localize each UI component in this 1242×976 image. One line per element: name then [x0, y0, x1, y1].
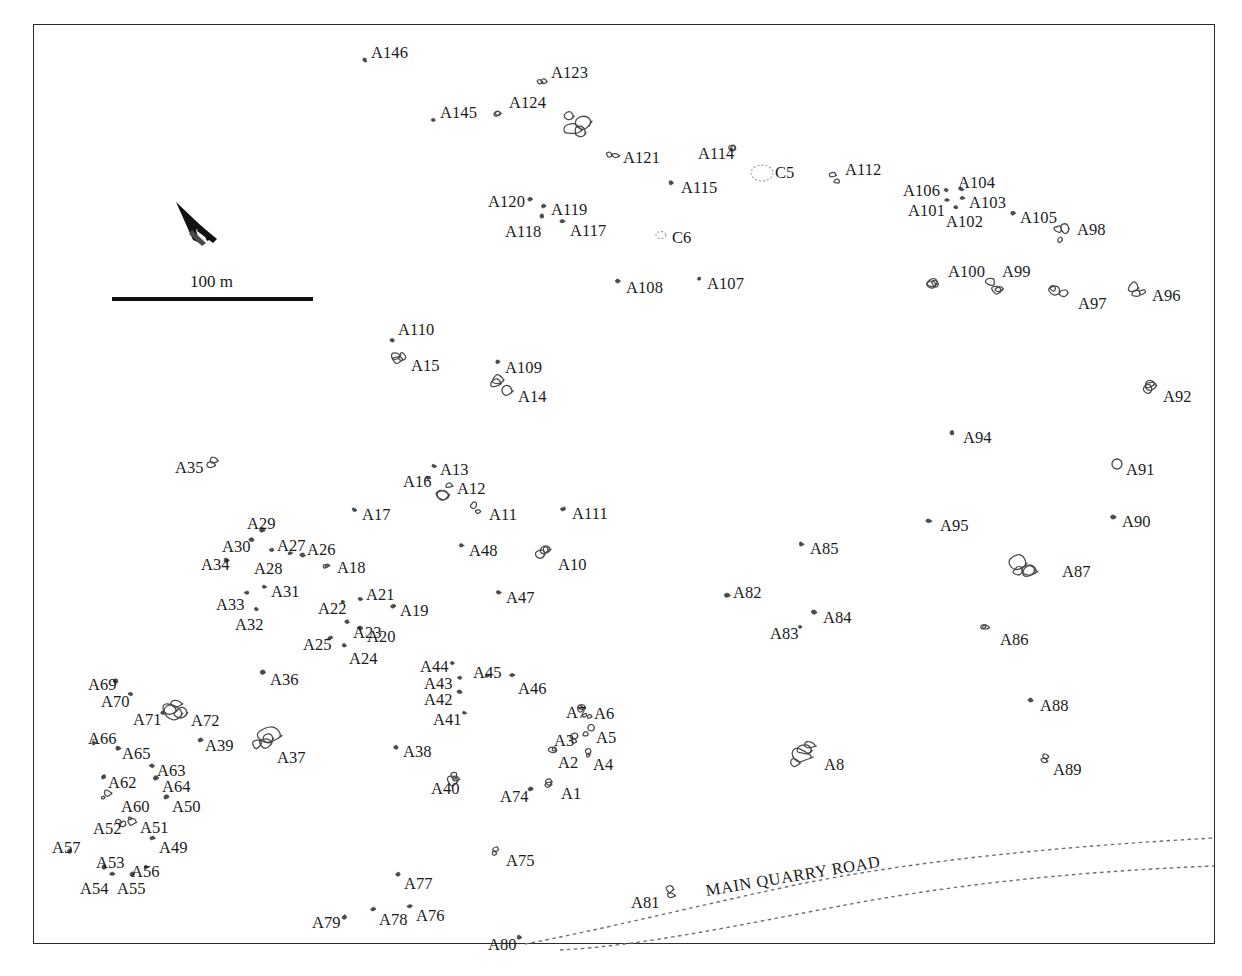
site-feature-a112[interactable]: [829, 172, 839, 183]
site-feature-a102[interactable]: [953, 206, 957, 209]
site-feature-a32[interactable]: [254, 607, 258, 611]
site-feature-a82[interactable]: [724, 593, 730, 597]
site-feature-a54[interactable]: [110, 872, 115, 875]
site-feature-a5[interactable]: [583, 724, 594, 735]
site-label-a45: A45: [473, 665, 502, 682]
site-feature-a37[interactable]: [253, 727, 283, 749]
site-label-a5: A5: [596, 730, 616, 747]
site-feature-a8[interactable]: [791, 741, 817, 766]
site-feature-a27[interactable]: [269, 548, 274, 552]
site-label-a85: A85: [810, 541, 839, 558]
site-feature-a84[interactable]: [811, 610, 817, 614]
site-label-a65: A65: [122, 746, 151, 763]
site-feature-a77[interactable]: [396, 872, 400, 876]
site-feature-a10[interactable]: [535, 546, 551, 559]
site-feature-a11[interactable]: [470, 502, 480, 514]
site-feature-a87[interactable]: [1009, 555, 1038, 577]
site-feature-a105[interactable]: [1011, 211, 1016, 215]
site-feature-a18[interactable]: [323, 564, 330, 568]
site-feature-a1[interactable]: [545, 779, 552, 787]
site-label-a35: A35: [175, 460, 204, 477]
site-feature-a91[interactable]: [1112, 459, 1122, 469]
site-feature-a12[interactable]: [436, 483, 453, 500]
site-feature-a119[interactable]: [542, 204, 546, 208]
site-feature-a24[interactable]: [342, 644, 346, 648]
site-feature-a46[interactable]: [509, 673, 515, 676]
site-feature-a33[interactable]: [244, 591, 248, 594]
site-feature-c5[interactable]: [751, 165, 773, 181]
site-feature-a78[interactable]: [371, 907, 377, 911]
site-label-a38: A38: [403, 744, 432, 761]
site-feature-c6[interactable]: [656, 231, 666, 238]
site-feature-a17[interactable]: [352, 508, 357, 512]
site-feature-a100[interactable]: [927, 279, 939, 289]
site-label-a99: A99: [1002, 264, 1031, 281]
site-feature-a103[interactable]: [960, 196, 965, 199]
site-feature-a79[interactable]: [342, 915, 347, 920]
site-feature-a123[interactable]: [537, 79, 547, 84]
site-feature-a99[interactable]: [985, 278, 1003, 294]
site-feature-a72[interactable]: [163, 700, 188, 720]
site-feature-a122[interactable]: [564, 112, 592, 137]
site-feature-a14[interactable]: [491, 375, 513, 396]
site-feature-a47[interactable]: [496, 591, 501, 595]
site-feature-a75[interactable]: [492, 847, 498, 856]
site-feature-a86[interactable]: [981, 625, 990, 629]
site-feature-a36[interactable]: [260, 670, 265, 674]
site-feature-a35[interactable]: [207, 457, 218, 467]
site-feature-a90[interactable]: [1111, 515, 1117, 519]
site-label-a110: A110: [398, 322, 434, 339]
site-feature-a76[interactable]: [407, 905, 412, 908]
site-feature-a124[interactable]: [494, 111, 501, 116]
site-label-a53: A53: [96, 855, 125, 872]
site-feature-a21[interactable]: [358, 597, 363, 600]
site-feature-a115[interactable]: [669, 181, 673, 185]
site-feature-a121[interactable]: [606, 152, 619, 157]
site-label-a79: A79: [312, 915, 341, 932]
site-feature-a89[interactable]: [1041, 754, 1049, 763]
site-feature-a44[interactable]: [450, 661, 454, 664]
site-feature-a111[interactable]: [560, 507, 565, 511]
site-feature-a108[interactable]: [615, 279, 620, 283]
site-feature-a74[interactable]: [528, 787, 533, 791]
site-feature-a118[interactable]: [540, 214, 544, 218]
site-feature-a107[interactable]: [697, 277, 700, 280]
site-feature-a83[interactable]: [799, 625, 802, 628]
site-feature-a62[interactable]: [102, 775, 106, 779]
site-feature-a101[interactable]: [944, 199, 949, 202]
site-feature-a92[interactable]: [1143, 380, 1156, 393]
site-feature-a13[interactable]: [432, 464, 437, 468]
site-feature-a23[interactable]: [345, 620, 349, 624]
site-label-a104: A104: [958, 175, 995, 192]
site-feature-a109[interactable]: [496, 360, 500, 364]
site-feature-a19[interactable]: [390, 604, 395, 608]
site-label-a50: A50: [172, 799, 201, 816]
site-feature-a146[interactable]: [363, 58, 367, 62]
site-feature-a63[interactable]: [149, 764, 154, 768]
site-feature-a81[interactable]: [666, 886, 675, 898]
site-label-a37: A37: [277, 750, 306, 767]
site-feature-a38[interactable]: [393, 745, 397, 749]
site-feature-a39[interactable]: [198, 738, 203, 742]
site-feature-a95[interactable]: [926, 519, 932, 523]
site-feature-a145[interactable]: [431, 118, 435, 121]
site-label-a41: A41: [433, 712, 462, 729]
site-feature-a106[interactable]: [944, 188, 948, 191]
site-feature-a120[interactable]: [528, 197, 533, 201]
site-feature-a85[interactable]: [799, 542, 804, 546]
site-feature-a51[interactable]: [128, 817, 137, 825]
site-feature-a41[interactable]: [462, 711, 466, 714]
site-feature-a48[interactable]: [459, 544, 464, 547]
site-feature-a4[interactable]: [585, 749, 590, 757]
site-feature-a15[interactable]: [391, 353, 405, 364]
site-feature-a117[interactable]: [560, 219, 566, 222]
site-feature-a42[interactable]: [457, 690, 462, 694]
site-feature-a94[interactable]: [950, 430, 954, 435]
site-feature-a97[interactable]: [1049, 286, 1069, 297]
site-feature-a80[interactable]: [517, 935, 522, 939]
site-feature-a88[interactable]: [1028, 698, 1033, 702]
site-feature-a31[interactable]: [262, 585, 266, 588]
site-feature-a96[interactable]: [1128, 282, 1145, 296]
site-feature-a43[interactable]: [457, 676, 461, 679]
site-feature-a110[interactable]: [390, 338, 394, 342]
